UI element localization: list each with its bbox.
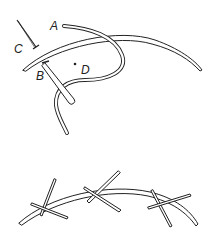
stitched-strip (19, 189, 198, 226)
label-b: B (36, 69, 44, 83)
label-a: A (49, 19, 58, 33)
label-c: C (14, 42, 23, 56)
label-d: D (81, 63, 90, 77)
point-d (74, 63, 77, 66)
top-figure: A C B D (14, 19, 202, 133)
bottom-figure (19, 171, 198, 227)
suture-diagram: A C B D (0, 0, 217, 238)
